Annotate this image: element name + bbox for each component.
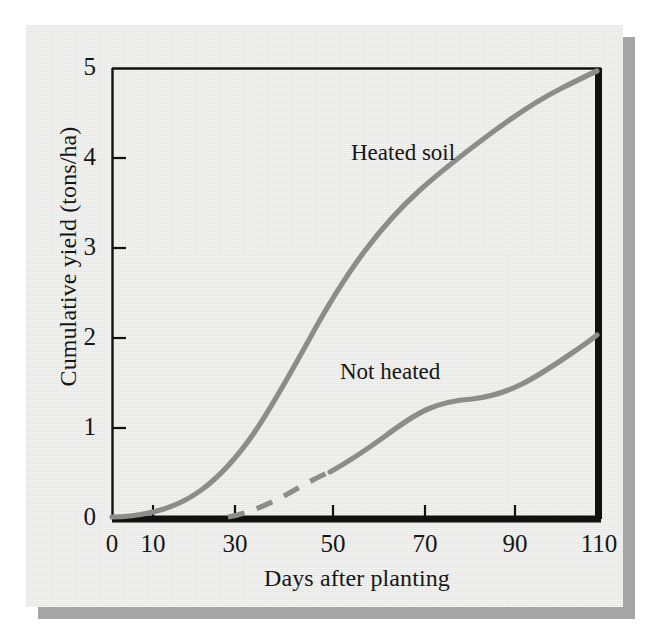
x-tick-label-90: 90 [491,530,539,558]
x-axis-title: Days after planting [112,565,602,592]
x-tick-label-30: 30 [211,530,259,558]
x-tick-label-50: 50 [309,530,357,558]
figure-root: Cumulative yield (tons/ha) Days after pl… [0,0,647,628]
series-line-not-heated-dashed [228,471,332,517]
y-tick-label-3: 3 [60,233,96,261]
y-tick-label-0: 0 [60,503,96,531]
y-tick-label-2: 2 [60,323,96,351]
x-tick-label-110: 110 [570,530,628,558]
series-line-not-heated-solid [330,335,597,472]
y-tick-label-5: 5 [60,53,96,81]
x-tick-label-70: 70 [401,530,449,558]
y-tick-label-1: 1 [60,413,96,441]
x-tick-label-10: 10 [129,530,177,558]
y-tick-label-4: 4 [60,143,96,171]
series-line-heated-soil [112,71,597,517]
series-annotation-not-heated: Not heated [340,359,440,385]
series-annotation-heated-soil: Heated soil [351,140,455,166]
y-axis-ticks [112,158,126,428]
x-tick-label-0: 0 [94,530,130,558]
